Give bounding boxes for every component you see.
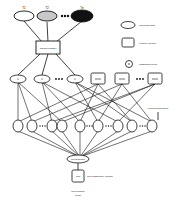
legend-label-intermediate: Intermediate Data bbox=[139, 24, 156, 26]
meta-ensemble-label: Meta Ensemble bbox=[71, 158, 86, 160]
model-node-8 bbox=[127, 120, 137, 132]
legend-label-algorithm: Learning Algorithm bbox=[139, 42, 156, 44]
result-label-line1: Meta-Classifier bbox=[71, 190, 85, 192]
meta-ensemble-node: Meta Ensemble bbox=[67, 155, 89, 163]
legend-box-icon bbox=[122, 38, 134, 47]
data-node-1 bbox=[10, 75, 26, 83]
algorithm-dots-ellipsis bbox=[136, 78, 144, 80]
algorithm-box-2 bbox=[115, 73, 129, 84]
legend: Intermediate Data Learning Algorithm Cla… bbox=[121, 22, 157, 68]
algorithm-box-1 bbox=[91, 73, 105, 84]
combined-dataset-label: Combined Dataset bbox=[40, 47, 57, 49]
model-node-7 bbox=[113, 120, 123, 132]
model-node-9 bbox=[147, 120, 157, 132]
top-node-n: Tn bbox=[71, 6, 93, 22]
top-node-1: T1 bbox=[14, 6, 34, 21]
model-nodes bbox=[13, 120, 157, 132]
model-node-5 bbox=[75, 120, 85, 132]
top-node-2-label: T2 bbox=[45, 6, 49, 10]
model-node-3 bbox=[47, 120, 57, 132]
result-label-line2: Result bbox=[75, 194, 81, 196]
model-node-2 bbox=[27, 120, 37, 132]
legend-label-result: Classification Result bbox=[139, 63, 157, 65]
meta-classifier-box: Meta Meta Classification Algorithm bbox=[72, 170, 113, 182]
legend-ellipse-icon bbox=[121, 22, 135, 29]
combined-dataset-box: Combined Dataset bbox=[36, 41, 60, 54]
top-node-2: T2 bbox=[37, 6, 57, 21]
model-node-1 bbox=[13, 120, 23, 132]
data-node-n bbox=[67, 75, 83, 83]
learning-combinations-label: Learning Combinations bbox=[148, 107, 169, 109]
model-node-4 bbox=[57, 120, 67, 132]
model-node-6 bbox=[93, 120, 103, 132]
top-node-n-label: Tn bbox=[80, 6, 84, 10]
data-dots-ellipsis bbox=[55, 78, 63, 80]
top-node-1-label: T1 bbox=[22, 6, 26, 10]
top-dots-ellipsis bbox=[61, 15, 69, 17]
meta-algorithm-label: Meta Classification Algorithm bbox=[87, 175, 113, 177]
meta-classifier-result: Meta-Classifier Result bbox=[71, 190, 85, 196]
diagram-canvas: T1 T2 Tn Combined Dataset Intermediate D… bbox=[0, 0, 189, 206]
algorithm-box-n bbox=[148, 73, 162, 84]
data-node-2 bbox=[34, 75, 50, 83]
